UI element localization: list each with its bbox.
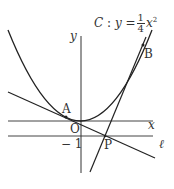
curve-colon: : [107, 16, 111, 30]
curve-var: x [146, 16, 153, 30]
curve-fraction: 14 [137, 13, 145, 34]
curve-exponent: 2 [153, 16, 157, 24]
tick-minus-one: − 1 [61, 138, 83, 150]
x-axis-label: x [148, 119, 155, 131]
point-p-label: P [104, 139, 112, 151]
curve-name: C [94, 16, 103, 30]
fraction-denominator: 4 [137, 24, 145, 34]
point-a-label: A [62, 103, 71, 115]
curve-lhs: y [115, 16, 122, 30]
curve-eq: = [126, 16, 136, 30]
tangent-line-b [90, 37, 146, 172]
point-p [104, 135, 106, 137]
curve-label: C : y =14x2 [94, 13, 157, 34]
line-l-label: ℓ [159, 138, 164, 150]
origin-label: O [70, 123, 80, 135]
y-axis-label: y [70, 30, 77, 42]
point-b-label: B [144, 48, 153, 60]
